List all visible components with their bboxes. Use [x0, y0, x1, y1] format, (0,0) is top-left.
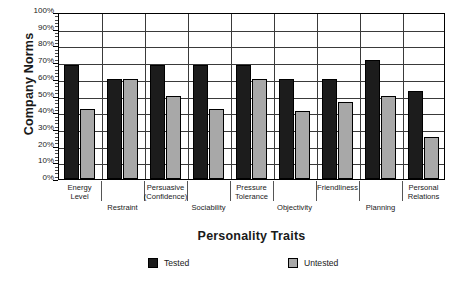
x-axis-title: Personality Traits: [58, 229, 445, 243]
y-axis-minor-tick: [55, 23, 58, 24]
bar-tested-8: [408, 91, 423, 180]
x-axis-label-8: Personal Relations: [394, 183, 451, 202]
bar-untested-8: [424, 137, 439, 179]
y-axis-minor-tick: [55, 50, 58, 51]
legend-swatch-untested: [288, 258, 298, 268]
y-axis-minor-tick: [55, 83, 58, 84]
y-axis-tick-label: 70%: [38, 57, 54, 65]
x-axis-label-5: Objectivity: [265, 203, 324, 212]
y-axis-tick-mark: [53, 63, 58, 64]
y-axis-minor-tick: [55, 26, 58, 27]
x-axis-category-labels: Energy LevelRestraintPersuasive (Confide…: [58, 181, 445, 227]
y-axis-minor-tick: [55, 73, 58, 74]
y-axis-minor-tick: [55, 76, 58, 77]
y-axis-minor-tick: [55, 137, 58, 138]
y-axis-minor-tick: [55, 53, 58, 54]
y-axis-tick-label: 40%: [38, 107, 54, 115]
y-axis-tick-mark: [53, 113, 58, 114]
y-axis-tick-mark: [53, 80, 58, 81]
bar-tested-6: [322, 79, 337, 179]
y-axis-minor-tick: [55, 56, 58, 57]
y-axis-tick-mark: [53, 180, 58, 181]
y-axis-minor-tick: [55, 100, 58, 101]
legend-item-untested[interactable]: Untested: [288, 258, 338, 268]
y-axis-tick-mark: [53, 46, 58, 47]
y-axis-minor-tick: [55, 110, 58, 111]
bar-tested-2: [150, 65, 165, 179]
y-axis-tick-label: 20%: [38, 141, 54, 149]
y-axis-minor-tick: [55, 93, 58, 94]
y-axis-minor-tick: [55, 133, 58, 134]
bar-untested-6: [338, 102, 353, 179]
y-axis-minor-tick: [55, 157, 58, 158]
y-axis-minor-tick: [55, 143, 58, 144]
y-axis-minor-tick: [55, 123, 58, 124]
legend-label-untested: Untested: [304, 258, 338, 268]
legend-label-tested: Tested: [164, 258, 189, 268]
x-axis-label-3: Sociability: [179, 203, 238, 212]
x-axis-label-1: Restraint: [93, 203, 152, 212]
y-axis-minor-tick: [55, 70, 58, 71]
bar-tested-4: [236, 65, 251, 179]
bar-untested-0: [80, 109, 95, 179]
bar-untested-3: [209, 109, 224, 179]
y-axis-minor-tick: [55, 150, 58, 151]
y-axis-tick-label: 90%: [38, 24, 54, 32]
bar-tested-3: [193, 65, 208, 179]
y-axis-tick-label: 10%: [38, 157, 54, 165]
y-axis-minor-tick: [55, 43, 58, 44]
y-axis-tick-label: 60%: [38, 74, 54, 82]
x-axis-separator: [273, 181, 274, 201]
y-axis-minor-tick: [55, 120, 58, 121]
y-axis-tick-mark: [53, 130, 58, 131]
legend-item-tested[interactable]: Tested: [148, 258, 189, 268]
y-axis-minor-tick: [55, 117, 58, 118]
bar-chart: Company Norms 100%90%80%70%60%50%40%30%2…: [0, 0, 451, 287]
y-axis-minor-tick: [55, 167, 58, 168]
y-axis-tick-mark: [53, 163, 58, 164]
x-axis-separator: [187, 181, 188, 201]
y-axis-minor-tick: [55, 90, 58, 91]
legend-swatch-tested: [148, 258, 158, 268]
y-axis-minor-tick: [55, 127, 58, 128]
y-axis-minor-tick: [55, 140, 58, 141]
plot-area: [58, 13, 445, 180]
bar-untested-4: [252, 79, 267, 179]
y-axis-tick-label: 100%: [34, 7, 54, 15]
y-axis-minor-tick: [55, 177, 58, 178]
bar-tested-1: [107, 79, 122, 179]
y-axis-minor-tick: [55, 86, 58, 87]
y-axis-minor-tick: [55, 16, 58, 17]
y-axis-minor-tick: [55, 36, 58, 37]
y-axis-minor-tick: [55, 153, 58, 154]
y-axis-tick-mark: [53, 97, 58, 98]
bar-untested-5: [295, 111, 310, 179]
y-axis-minor-tick: [55, 40, 58, 41]
y-axis-minor-tick: [55, 103, 58, 104]
y-axis-minor-tick: [55, 33, 58, 34]
y-axis-minor-tick: [55, 173, 58, 174]
bar-untested-1: [123, 79, 138, 179]
x-axis-label-7: Planning: [351, 203, 410, 212]
y-axis-minor-tick: [55, 107, 58, 108]
bar-tested-5: [279, 79, 294, 179]
y-axis-tick-mark: [53, 147, 58, 148]
chart-legend: TestedUntested: [58, 256, 445, 278]
y-axis-tick-mark: [53, 13, 58, 14]
y-axis-minor-tick: [55, 60, 58, 61]
bar-tested-0: [64, 65, 79, 179]
x-axis-separator: [101, 181, 102, 201]
x-axis-separator: [359, 181, 360, 201]
bar-untested-7: [381, 96, 396, 180]
bar-tested-7: [365, 60, 380, 179]
y-axis-tick-label: 80%: [38, 40, 54, 48]
y-axis-minor-tick: [55, 160, 58, 161]
y-axis-tick-mark: [53, 30, 58, 31]
y-axis-minor-tick: [55, 170, 58, 171]
bar-untested-2: [166, 96, 181, 180]
bars-layer: [59, 14, 444, 179]
y-axis-tick-label: 50%: [38, 91, 54, 99]
y-axis-tick-label: 30%: [38, 124, 54, 132]
y-axis-tick-labels: 100%90%80%70%60%50%40%30%20%10%0%: [22, 6, 54, 188]
y-axis-minor-tick: [55, 20, 58, 21]
